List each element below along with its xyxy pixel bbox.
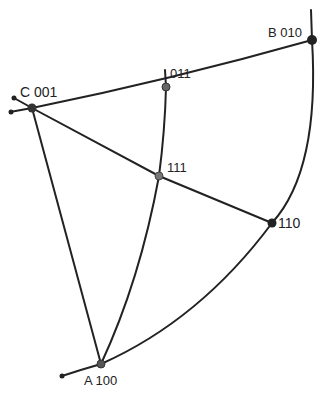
label-c-001: C 001 (20, 84, 58, 100)
label-b-010: B 010 (268, 25, 302, 40)
line-c-110 (14, 98, 272, 223)
c-tail-dot-lower (9, 110, 14, 115)
line-c-a (32, 108, 101, 364)
arc-b-a (62, 10, 313, 376)
label-110: 110 (278, 215, 301, 231)
pole-a-100 (97, 360, 105, 368)
pole-b-010 (307, 35, 317, 45)
stereographic-triangle-diagram: C 001 B 010 011 111 110 A 100 (0, 0, 323, 397)
arc-c-b (10, 40, 312, 112)
a-tail-dot (60, 374, 65, 379)
arc-011-a (101, 70, 166, 364)
pole-011 (162, 83, 170, 91)
pole-110 (268, 219, 277, 228)
c-tail-dot-upper (12, 96, 17, 101)
pole-c-001 (28, 104, 37, 113)
pole-111 (155, 172, 163, 180)
label-111: 111 (167, 160, 187, 175)
label-011: 011 (170, 66, 191, 81)
label-a-100: A 100 (84, 373, 117, 388)
